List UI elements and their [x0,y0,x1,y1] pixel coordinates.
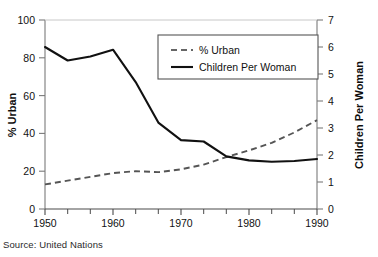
x-tick-label: 1960 [101,217,125,229]
right-tick-label: 4 [328,95,334,107]
right-tick-label: 0 [328,203,334,215]
x-axis-tick-labels: 1950 1960 1970 1980 1990 [33,217,329,229]
right-tick-label: 7 [328,14,334,26]
x-tick-label: 1990 [305,217,329,229]
x-tick-label: 1950 [33,217,57,229]
right-tick-label: 3 [328,122,334,134]
legend-label-children: Children Per Woman [199,61,296,73]
right-tick-label: 2 [328,149,334,161]
left-tick-label: 80 [23,52,35,64]
x-tick-label: 1970 [169,217,193,229]
x-axis-ticks [45,209,317,215]
y2-axis-title: Children Per Woman [353,61,365,169]
left-tick-label: 40 [23,127,35,139]
left-axis-tick-labels: 100 80 60 40 20 0 [17,14,35,215]
series-line-urban [45,120,317,184]
line-chart: 100 80 60 40 20 0 7 6 5 4 3 2 1 0 1950 1… [0,0,378,257]
right-tick-label: 6 [328,41,334,53]
chart-figure: Urban Rate [0,0,378,257]
legend-label-urban: % Urban [199,44,240,56]
x-tick-label: 1980 [237,217,261,229]
right-axis-tick-labels: 7 6 5 4 3 2 1 0 [328,14,334,215]
left-tick-label: 100 [17,14,35,26]
left-tick-label: 0 [29,203,35,215]
left-tick-label: 60 [23,90,35,102]
y-axis-title: % Urban [6,92,18,137]
right-tick-label: 5 [328,68,334,80]
source-note: Source: United Nations [3,239,103,250]
left-axis-ticks [39,20,45,209]
left-tick-label: 20 [23,165,35,177]
chart-legend: % Urban Children Per Woman [158,35,318,79]
right-tick-label: 1 [328,176,334,188]
